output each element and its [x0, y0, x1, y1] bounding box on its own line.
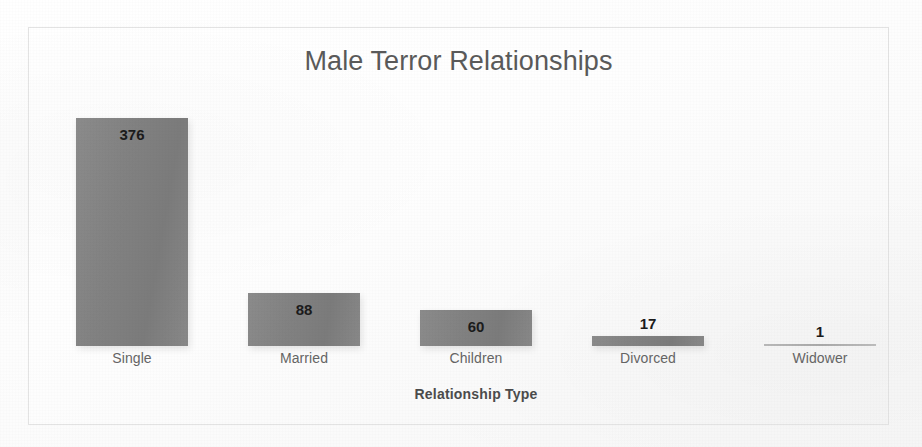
bar-value-single: 376: [76, 126, 188, 143]
bar-widower[interactable]: 1: [764, 344, 876, 346]
bar-married[interactable]: 88: [248, 293, 360, 346]
x-axis-title: Relationship Type: [76, 386, 876, 402]
bar-value-children: 60: [420, 318, 532, 335]
chart-screenshot: Male Terror Relationships # Terrorists 3…: [0, 0, 922, 447]
x-tick-label-widower: Widower: [764, 350, 876, 366]
chart-frame: Male Terror Relationships # Terrorists 3…: [28, 27, 889, 425]
x-tick-label-children: Children: [420, 350, 532, 366]
bar-children[interactable]: 60: [420, 310, 532, 346]
bar-value-divorced: 17: [592, 315, 704, 332]
bar-slot-widower: 1: [764, 88, 876, 346]
x-tick-label-married: Married: [248, 350, 360, 366]
x-tick-label-single: Single: [76, 350, 188, 366]
x-axis-tick-labels: Single Married Children Divorced Widower: [76, 350, 876, 366]
plot-area: 376 88 60 17: [76, 88, 876, 346]
chart-title: Male Terror Relationships: [29, 46, 888, 77]
bar-slot-children: 60: [420, 88, 532, 346]
bar-value-widower: 1: [764, 323, 876, 340]
bar-slot-married: 88: [248, 88, 360, 346]
bar-slot-divorced: 17: [592, 88, 704, 346]
bar-single[interactable]: 376: [76, 118, 188, 346]
x-tick-label-divorced: Divorced: [592, 350, 704, 366]
bar-slot-single: 376: [76, 88, 188, 346]
bar-value-married: 88: [248, 301, 360, 318]
bar-divorced[interactable]: 17: [592, 336, 704, 346]
bar-group: 376 88 60 17: [76, 88, 876, 346]
